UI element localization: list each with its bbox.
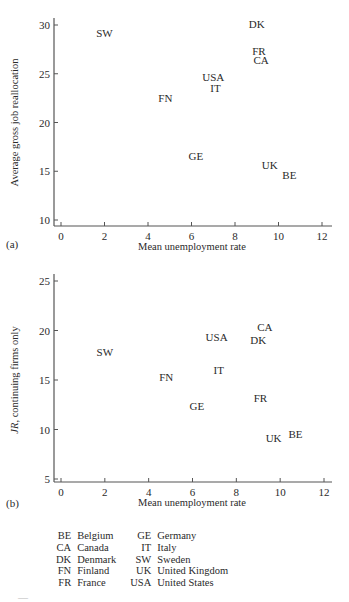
chart-b-point-sw: SW	[97, 346, 114, 358]
chart-b-point-be: BE	[288, 428, 302, 440]
chart-b-panel-label: (b)	[6, 497, 19, 510]
chart-a-y-tick-label: 20	[39, 117, 51, 129]
chart-b-y-tick-label: 5	[45, 473, 51, 485]
legend-country-name: Finland	[77, 565, 130, 577]
chart-b-x-axis-label: Mean unemployment rate	[138, 497, 246, 508]
chart-a-point-dk: DK	[249, 18, 265, 30]
chart-a-point-ge: GE	[189, 150, 204, 162]
legend-code: USA	[130, 577, 157, 589]
chart-a-y-tick-label: 25	[39, 68, 51, 80]
chart-b-point-uk: UK	[266, 432, 282, 444]
chart-a-x-tick-label: 2	[102, 230, 108, 242]
chart-b-x-tick-label: 12	[319, 486, 330, 498]
chart-a-point-uk: UK	[262, 159, 278, 171]
legend-country-name: Belgium	[77, 530, 130, 542]
chart-a-y-axis-label: Average gross job reallocation	[9, 58, 20, 187]
legend-code: UK	[130, 565, 157, 577]
legend-code: BE	[56, 530, 77, 542]
legend-code: GE	[130, 530, 157, 542]
chart-a-point-fn: FN	[158, 92, 172, 104]
chart-a-x-tick-label: 0	[58, 230, 64, 242]
chart-a-point-sw: SW	[96, 27, 113, 39]
chart-b-point-dk: DK	[250, 334, 266, 346]
chart-b-y-axis-label-rest: , continuing firms only	[9, 326, 20, 423]
chart-a-point-ca: CA	[253, 54, 268, 66]
chart-b-y-axis-label-italic: JR	[9, 422, 20, 434]
legend-country-name: Italy	[157, 542, 242, 554]
legend-row: FNFinlandUKUnited Kingdom	[56, 565, 242, 577]
chart-b-y-tick-label: 20	[39, 325, 51, 337]
legend-code: SW	[130, 554, 157, 566]
country-legend: BEBelgiumGEGermanyCACanadaITItalyDKDenma…	[56, 530, 242, 589]
legend-code: FR	[56, 577, 77, 589]
legend-row: BEBelgiumGEGermany	[56, 530, 242, 542]
chart-a-y-tick-label: 10	[39, 214, 51, 226]
chart-b-point-fr: FR	[254, 392, 268, 404]
chart-b-point-ca: CA	[257, 321, 272, 333]
chart-a-x-axis-label: Mean unemployment rate	[138, 241, 246, 252]
legend-code: IT	[130, 542, 157, 554]
legend-country-name: Denmark	[77, 554, 130, 566]
chart-b-point-ge: GE	[190, 400, 205, 412]
legend-table: BEBelgiumGEGermanyCACanadaITItalyDKDenma…	[56, 530, 242, 589]
charts-figure: 0246810121015202530Mean unemployment rat…	[0, 0, 349, 530]
chart-b-x-tick-label: 2	[102, 486, 108, 498]
chart-b-x-tick-label: 0	[58, 486, 64, 498]
chart-b-y-tick-label: 15	[39, 374, 51, 386]
chart-a-y-tick-label: 30	[39, 19, 51, 31]
legend-code: FN	[56, 565, 77, 577]
chart-b-y-tick-label: 25	[39, 275, 51, 287]
legend-country-name: United Kingdom	[157, 565, 242, 577]
chart-b-point-it: IT	[214, 364, 225, 376]
legend-country-name: United States	[157, 577, 242, 589]
chart-b-y-tick-label: 10	[39, 424, 51, 436]
figure-caption-cutoff: —	[18, 592, 28, 602]
chart-a-panel-label: (a)	[6, 238, 19, 251]
chart-a-x-tick-label: 10	[273, 230, 285, 242]
legend-code: CA	[56, 542, 77, 554]
legend-country-name: France	[77, 577, 130, 589]
chart-a-point-usa: USA	[202, 71, 224, 83]
legend-row: FRFranceUSAUnited States	[56, 577, 242, 589]
legend-country-name: Canada	[77, 542, 130, 554]
legend-code: DK	[56, 554, 77, 566]
chart-a-y-tick-label: 15	[39, 165, 51, 177]
legend-country-name: Germany	[157, 530, 242, 542]
legend-country-name: Sweden	[157, 554, 242, 566]
chart-b-point-usa: USA	[206, 331, 228, 343]
chart-a-point-be: BE	[282, 169, 296, 181]
chart-b-point-fn: FN	[159, 371, 173, 383]
legend-row: CACanadaITItaly	[56, 542, 242, 554]
chart-b-y-axis-label: JR, continuing firms only	[9, 326, 20, 434]
legend-row: DKDenmarkSWSweden	[56, 554, 242, 566]
chart-a-point-it: IT	[210, 82, 221, 94]
chart-a-x-tick-label: 12	[317, 230, 328, 242]
chart-b-x-tick-label: 10	[275, 486, 287, 498]
